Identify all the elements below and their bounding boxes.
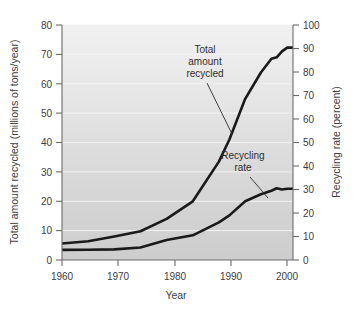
x-tick-2000: 2000	[276, 271, 299, 282]
y-left-tick-40: 40	[41, 137, 53, 148]
y-left-tick-30: 30	[41, 167, 53, 178]
annotation-rate-line-2: rate	[234, 162, 252, 173]
y-right-tick-70: 70	[303, 90, 315, 101]
y-right-tick-50: 50	[303, 137, 315, 148]
y-left-tick-50: 50	[41, 108, 53, 119]
x-tick-1960: 1960	[51, 271, 74, 282]
y-right-tick-40: 40	[303, 161, 315, 172]
y-right-tick-90: 90	[303, 43, 315, 54]
annotation-rate-line-1: Recycling	[221, 150, 264, 161]
y-right-tick-80: 80	[303, 67, 315, 78]
y-axis-left-title: Total amount recycled (millions of tons/…	[8, 40, 20, 245]
y-right-tick-10: 10	[303, 231, 315, 242]
y-right-tick-0: 0	[303, 255, 309, 266]
y-left-tick-70: 70	[41, 49, 53, 60]
y-right-tick-100: 100	[303, 20, 320, 31]
y-axis-left-ticks	[56, 25, 62, 260]
chart-figure: 80 70 60 50 40 30 20 10 0 100 90	[0, 0, 354, 318]
recycling-line-chart: 80 70 60 50 40 30 20 10 0 100 90	[0, 0, 354, 318]
y-left-tick-60: 60	[41, 79, 53, 90]
y-right-tick-30: 30	[303, 184, 315, 195]
x-axis-title: Year	[165, 289, 187, 301]
x-tick-1990: 1990	[220, 271, 243, 282]
y-axis-right-ticklabels: 100 90 80 70 60 50 40 30 20 10 0	[303, 20, 320, 266]
y-axis-left-ticklabels: 80 70 60 50 40 30 20 10 0	[41, 20, 53, 266]
x-tick-1970: 1970	[107, 271, 130, 282]
x-axis-ticks	[62, 260, 287, 266]
annotation-total-line-2: amount	[188, 56, 222, 67]
y-axis-right-title: Recycling rate (percent)	[330, 86, 342, 197]
annotation-total-line-1: Total	[194, 44, 215, 55]
y-left-tick-80: 80	[41, 20, 53, 31]
x-tick-1980: 1980	[164, 271, 187, 282]
annotation-total-line-3: recycled	[186, 68, 223, 79]
y-left-tick-20: 20	[41, 196, 53, 207]
y-right-tick-60: 60	[303, 114, 315, 125]
y-left-tick-10: 10	[41, 225, 53, 236]
y-right-tick-20: 20	[303, 208, 315, 219]
y-left-tick-0: 0	[46, 255, 52, 266]
x-axis-ticklabels: 1960 1970 1980 1990 2000	[51, 271, 299, 282]
y-axis-right-ticks	[293, 25, 299, 260]
